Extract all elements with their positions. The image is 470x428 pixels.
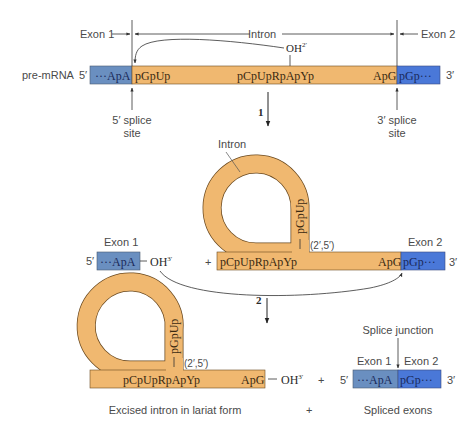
intermediate-branch-sequence: pCpUpRpApYp bbox=[220, 255, 297, 269]
excised-lariat-loop bbox=[86, 282, 174, 370]
spliced-three-prime: 3′ bbox=[447, 374, 455, 386]
spliced-exon2-sequence: pGp··· bbox=[400, 373, 433, 387]
branch-oh-label: OH2′ bbox=[286, 41, 307, 54]
nucleophilic-attack-arrow-1 bbox=[135, 39, 284, 63]
excised-branch-sequence: pCpUpRpApYp bbox=[123, 373, 200, 387]
five-prime-splice-label-line2: site bbox=[123, 127, 140, 139]
spliced-exon2-label: Exon 2 bbox=[404, 355, 438, 367]
intermediate-three-prime: 3′ bbox=[449, 256, 457, 268]
splicing-diagram: Exon 1 Intron Exon 2 OH2′ pre-mRNA 5′ ··… bbox=[0, 0, 470, 428]
intron-5prime-sequence: pGpUp bbox=[135, 69, 170, 83]
excised-junction-fill bbox=[166, 358, 183, 372]
intermediate-exon1-sequence: ···ApA bbox=[100, 255, 136, 269]
three-prime-splice-label-line1: 3′ splice bbox=[377, 114, 416, 126]
intermediate-exon2-label: Exon 2 bbox=[408, 236, 442, 248]
caption-spliced-exons: Spliced exons bbox=[364, 404, 433, 416]
step2-label: 2 bbox=[256, 294, 262, 306]
exon1-oh-label: OH3′ bbox=[150, 255, 173, 269]
five-prime-splice-label-line1: 5′ splice bbox=[112, 114, 151, 126]
caption-lariat: Excised intron in lariat form bbox=[109, 404, 242, 416]
intron-3prime-sequence: ApG bbox=[373, 69, 397, 83]
intermediate-section: Intron pGpUp (2′,5′) pCpUpRpApYp ApG pGp… bbox=[86, 138, 457, 296]
products-plus: + bbox=[318, 374, 324, 386]
spliced-exon1-label: Exon 1 bbox=[357, 355, 391, 367]
premrna-section: Exon 1 Intron Exon 2 OH2′ pre-mRNA 5′ ··… bbox=[22, 20, 455, 139]
excised-oh-label: OH3′ bbox=[281, 373, 304, 387]
excised-intron-end: ApG bbox=[241, 373, 265, 387]
excised-linkage-label: (2′,5′) bbox=[184, 358, 208, 369]
intermediate-plus: + bbox=[205, 256, 211, 268]
label-intron-top: Intron bbox=[248, 28, 276, 40]
five-prime-end: 5′ bbox=[79, 69, 87, 81]
caption-plus: + bbox=[306, 404, 312, 416]
splice-junction-label: Splice junction bbox=[363, 324, 434, 336]
intron-callout-label: Intron bbox=[218, 138, 246, 150]
lariat-junction-fill bbox=[292, 240, 309, 254]
loop-sequence: pGpUp bbox=[293, 199, 307, 234]
branch-linkage-label: (2′,5′) bbox=[310, 240, 334, 251]
label-exon2-top: Exon 2 bbox=[421, 28, 455, 40]
lariat-loop bbox=[212, 164, 300, 252]
spliced-exon1-sequence: ···ApA bbox=[357, 373, 393, 387]
exon1-sequence: ···ApA bbox=[95, 69, 131, 83]
intermediate-exon2-sequence: pGp··· bbox=[403, 255, 436, 269]
three-prime-end: 3′ bbox=[446, 69, 454, 81]
three-prime-splice-label-line2: site bbox=[388, 127, 405, 139]
products-section: pGpUp (2′,5′) pCpUpRpApYp ApG OH3′ + Spl… bbox=[86, 282, 455, 416]
nucleophilic-attack-arrow-2 bbox=[160, 271, 402, 296]
step1-label: 1 bbox=[258, 106, 264, 118]
intermediate-five-prime: 5′ bbox=[86, 255, 94, 267]
exon2-sequence: pGp··· bbox=[399, 69, 432, 83]
spliced-five-prime: 5′ bbox=[340, 374, 348, 386]
excised-loop-sequence: pGpUp bbox=[167, 319, 181, 354]
intron-branch-sequence: pCpUpRpApYp bbox=[237, 69, 314, 83]
intermediate-intron-end: ApG bbox=[378, 255, 402, 269]
label-exon1-top: Exon 1 bbox=[80, 28, 114, 40]
premrna-label: pre-mRNA bbox=[22, 69, 75, 81]
intermediate-exon1-label: Exon 1 bbox=[104, 236, 138, 248]
